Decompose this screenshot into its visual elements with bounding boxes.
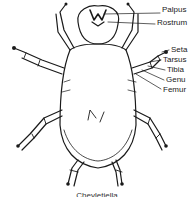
label-femur: Femur — [163, 85, 186, 94]
mite-diagram: Palpus Rostrum Seta Tarsus Tibia Genu Fe… — [0, 0, 194, 197]
mite-illustration — [0, 0, 194, 197]
label-tarsus: Tarsus — [163, 55, 187, 64]
label-genu: Genu — [166, 75, 186, 84]
label-palpus: Palpus — [162, 5, 186, 14]
label-seta: Seta — [171, 45, 187, 54]
label-rostrum: Rostrum — [157, 18, 187, 27]
figure-caption: Cheyletiella — [0, 191, 194, 197]
label-tibia: Tibia — [167, 65, 184, 74]
